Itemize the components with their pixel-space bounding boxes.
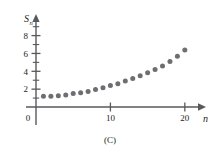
y-tick-label: 2 <box>24 84 29 94</box>
data-point <box>108 83 113 88</box>
data-point <box>71 91 76 96</box>
data-point <box>48 94 53 99</box>
data-point <box>130 76 135 81</box>
data-point <box>175 54 180 59</box>
figure-panel: 246810200 Sn n (C) <box>0 0 221 152</box>
data-point <box>138 73 143 78</box>
data-point <box>153 67 158 72</box>
x-tick-label: 10 <box>106 113 116 123</box>
x-tick-label: 20 <box>180 113 190 123</box>
y-axis-label: Sn <box>24 13 33 26</box>
y-tick-label: 6 <box>24 49 29 59</box>
data-point <box>100 85 105 90</box>
data-points-group <box>41 47 187 98</box>
data-point <box>167 59 172 64</box>
y-tick-label: 4 <box>24 67 29 77</box>
figure-caption: (C) <box>104 135 116 145</box>
x-axis-label: n <box>203 113 208 124</box>
y-tick-label: 8 <box>24 31 29 41</box>
data-point <box>78 90 83 95</box>
data-point <box>115 81 120 86</box>
data-point <box>41 94 46 99</box>
data-point <box>56 93 61 98</box>
tick-labels-group: 246810200 <box>24 31 190 123</box>
data-point <box>63 92 68 97</box>
data-point <box>123 79 128 84</box>
x-axis-arrowhead <box>198 103 206 111</box>
origin-tick-label: 0 <box>26 113 31 123</box>
tick-marks-group <box>32 27 185 112</box>
data-point <box>93 87 98 92</box>
data-point <box>145 70 150 75</box>
data-point <box>160 63 165 68</box>
data-point <box>182 47 187 52</box>
axes-group <box>26 14 206 125</box>
scatter-plot: 246810200 Sn n (C) <box>0 0 221 152</box>
y-axis-arrowhead <box>32 14 39 22</box>
data-point <box>86 89 91 94</box>
